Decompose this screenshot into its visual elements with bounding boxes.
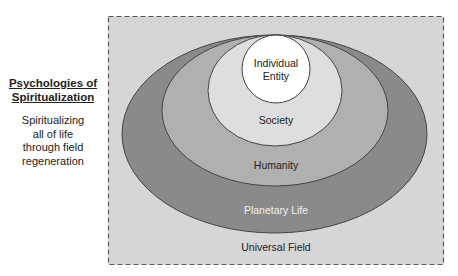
individual-entity-circle [242,35,310,103]
individual-label-line-2: Entity [263,70,290,82]
universal-field-label: Universal Field [241,241,311,253]
society-label: Society [259,114,294,126]
individual-label-line-1: Individual [254,57,298,69]
planetary-life-label: Planetary Life [244,204,308,216]
humanity-label: Humanity [254,159,299,171]
nested-fields-diagram: Individual Entity Society Humanity Plane… [0,0,458,276]
